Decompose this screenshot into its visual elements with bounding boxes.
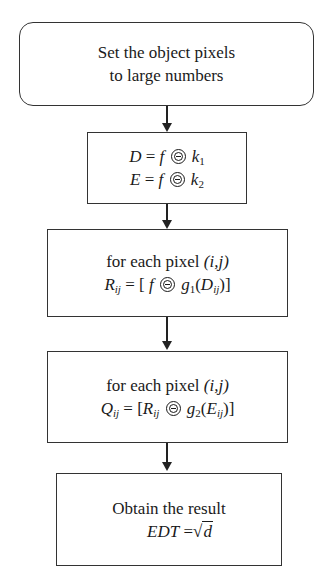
var-d: D (129, 147, 141, 166)
erosion-operator-icon (160, 277, 175, 292)
equals-sign: = (179, 522, 193, 541)
var-g: g (181, 275, 190, 294)
subscript: ij (115, 283, 121, 295)
loop-text: for each pixel (i,j) (106, 250, 229, 273)
var-r: R (104, 275, 114, 294)
var-d: d (202, 521, 213, 541)
node-erosion-d-e: D = f k1 E = f k2 (87, 132, 247, 204)
loop-text: for each pixel (i,j) (106, 374, 229, 397)
equation-d: D = f k1 (129, 145, 205, 168)
subscript: 1 (199, 155, 205, 167)
node-text-line-2: to large numbers (110, 64, 224, 87)
subscript: ij (113, 407, 119, 419)
subscript: 2 (198, 178, 204, 190)
node-text-line-1: Set the object pixels (98, 41, 235, 64)
node-compute-q: for each pixel (i,j) Qij = [Rij g2(Eij)] (47, 351, 288, 443)
var-e: E (130, 170, 140, 189)
erosion-operator-icon (170, 172, 185, 187)
subscript: ij (153, 407, 159, 419)
erosion-operator-icon (171, 149, 186, 164)
loop-label: for each pixel (106, 376, 204, 395)
open-bracket: = [ (123, 399, 143, 418)
pixel-index: (i,j) (204, 376, 229, 395)
var-d: D (201, 275, 213, 294)
open-bracket: = [ (125, 275, 145, 294)
erosion-operator-icon (166, 401, 181, 416)
node-obtain-result: Obtain the result EDT =√d (56, 473, 282, 566)
equals-sign: = (146, 147, 156, 166)
equation-edt: EDT =√d (125, 520, 213, 543)
var-r: R (143, 399, 153, 418)
pixel-index: (i,j) (204, 252, 229, 271)
var-q: Q (101, 399, 113, 418)
equation-e: E = f k2 (130, 168, 204, 191)
var-f: f (160, 147, 165, 166)
node-compute-r: for each pixel (i,j) Rij = [ f g1(Dij)] (47, 229, 288, 317)
close-bracket: )] (219, 275, 230, 294)
loop-label: for each pixel (106, 252, 204, 271)
var-f: f (159, 170, 164, 189)
close-bracket: )] (223, 399, 234, 418)
var-edt: EDT (147, 522, 179, 541)
result-text: Obtain the result (112, 497, 225, 520)
var-f: f (149, 275, 154, 294)
equals-sign: = (145, 170, 155, 189)
sqrt-icon: √ (193, 522, 202, 541)
var-e: E (207, 399, 217, 418)
node-set-object-pixels: Set the object pixels to large numbers (19, 22, 314, 106)
equation-q: Qij = [Rij g2(Eij)] (101, 397, 235, 420)
equation-r: Rij = [ f g1(Dij)] (104, 273, 230, 296)
